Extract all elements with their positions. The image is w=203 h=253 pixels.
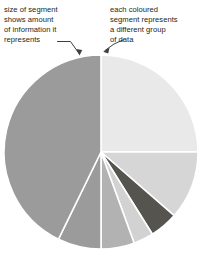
- figure-root: size of segment shows amount of informat…: [0, 0, 203, 253]
- callout-each-coloured-segment: each coloured segment represents a diffe…: [110, 5, 202, 45]
- callout-size-of-segment: size of segment shows amount of informat…: [4, 5, 96, 45]
